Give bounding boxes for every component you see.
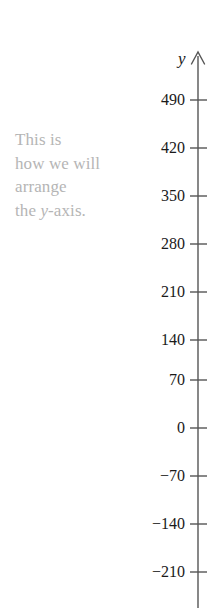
- y-tick-label: −70: [160, 468, 185, 484]
- y-tick-label: 350: [161, 188, 185, 204]
- y-axis-label: y: [178, 50, 186, 67]
- y-axis-graphic: [0, 0, 224, 612]
- y-tick-label: 140: [161, 332, 185, 348]
- y-tick-label: 210: [161, 284, 185, 300]
- y-tick-label: 0: [177, 420, 185, 436]
- y-tick-label: 420: [161, 140, 185, 156]
- y-tick-label: −140: [152, 516, 185, 532]
- y-axis-figure: This is how we will arrange the y-axis.: [0, 0, 224, 612]
- y-tick-label: 70: [169, 372, 185, 388]
- y-tick-label: 280: [161, 236, 185, 252]
- y-tick-label: 490: [161, 92, 185, 108]
- y-tick-label: −210: [152, 564, 185, 580]
